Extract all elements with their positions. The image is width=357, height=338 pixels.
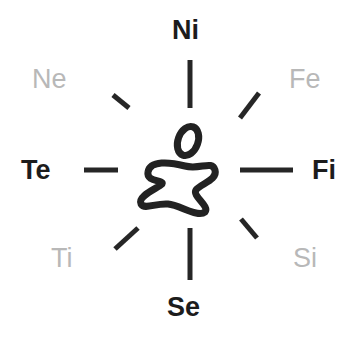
stick-figure-icon xyxy=(140,123,215,213)
label-se: Se xyxy=(167,294,200,321)
label-ti: Ti xyxy=(51,245,73,272)
ray-ne xyxy=(240,93,259,118)
ray-sw xyxy=(115,228,138,249)
label-ne: Ne xyxy=(32,66,67,93)
label-ni: Ni xyxy=(172,17,199,44)
label-te: Te xyxy=(21,157,51,184)
ray-nw xyxy=(113,95,129,108)
label-fi: Fi xyxy=(312,157,336,184)
label-fe: Fe xyxy=(289,66,321,93)
ray-se xyxy=(241,219,257,238)
diagram-canvas xyxy=(0,0,357,338)
label-si: Si xyxy=(293,245,317,272)
